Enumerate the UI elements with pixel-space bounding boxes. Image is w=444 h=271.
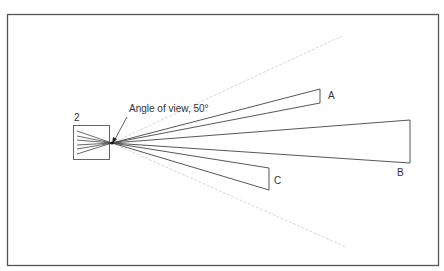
wedge-label-b: B	[397, 168, 404, 178]
box-label: 2	[74, 113, 80, 123]
wedge-label-c: C	[274, 176, 281, 186]
inner-fan-lines	[77, 131, 112, 154]
wedge-c	[112, 143, 269, 190]
focal-point-icon	[110, 141, 113, 144]
angle-annotation: Angle of view, 50°	[129, 104, 209, 114]
outer-frame	[8, 15, 439, 266]
diagram-canvas	[0, 0, 444, 271]
angle-boundary-upper	[112, 36, 342, 143]
angle-boundary-lower	[112, 143, 346, 247]
wedge-label-a: A	[328, 91, 335, 101]
